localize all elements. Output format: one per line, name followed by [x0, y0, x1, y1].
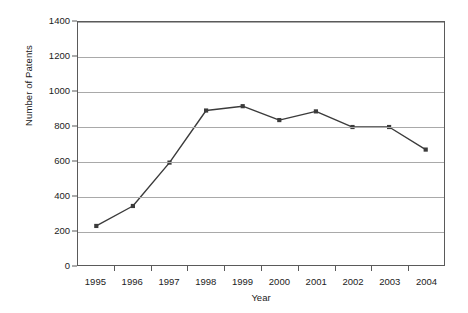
y-axis-tick-mark — [72, 91, 77, 92]
data-point-marker — [241, 104, 245, 108]
x-axis-tick-mark — [224, 266, 225, 271]
gridline — [78, 232, 444, 233]
y-axis-tick-mark — [72, 21, 77, 22]
x-axis-tick-mark — [371, 266, 372, 271]
gridline — [78, 197, 444, 198]
y-axis-tick-labels: 0200400600800100012001400 — [36, 21, 70, 266]
gridline — [78, 162, 444, 163]
y-axis-title: Number of Patents — [23, 16, 34, 156]
x-axis-tick-mark — [298, 266, 299, 271]
x-axis-title: Year — [77, 292, 445, 303]
gridline — [78, 127, 444, 128]
y-axis-tick-label: 0 — [36, 261, 70, 271]
x-axis-tick-label: 2000 — [269, 277, 290, 287]
x-axis-tick-mark — [261, 266, 262, 271]
x-axis-tick-label: 1995 — [85, 277, 106, 287]
y-axis-tick-label: 200 — [36, 226, 70, 236]
data-point-marker — [94, 224, 98, 228]
x-axis-tick-label: 1998 — [195, 277, 216, 287]
y-axis-tick-label: 1200 — [36, 51, 70, 61]
y-axis-tick-mark — [72, 231, 77, 232]
x-axis-tick-mark — [187, 266, 188, 271]
y-axis-tick-mark — [72, 56, 77, 57]
y-axis-tick-label: 400 — [36, 191, 70, 201]
patents-line-chart: Number of Patents 0200400600800100012001… — [0, 0, 468, 313]
data-point-marker — [314, 109, 318, 113]
data-point-marker — [424, 147, 428, 151]
data-line-series — [78, 22, 444, 265]
gridline — [78, 57, 444, 58]
x-axis-tick-mark — [335, 266, 336, 271]
y-axis-tick-mark — [72, 196, 77, 197]
y-axis-tick-label: 1000 — [36, 86, 70, 96]
x-axis-tick-label: 2002 — [342, 277, 363, 287]
y-axis-tick-label: 1400 — [36, 16, 70, 26]
y-axis-tick-mark — [72, 266, 77, 267]
gridline — [78, 22, 444, 23]
y-axis-tick-label: 600 — [36, 156, 70, 166]
x-axis-tick-label: 2003 — [379, 277, 400, 287]
x-axis-tick-label: 1996 — [122, 277, 143, 287]
y-axis-tick-label: 800 — [36, 121, 70, 131]
series-polyline — [96, 106, 425, 226]
x-axis-tick-label: 2004 — [416, 277, 437, 287]
x-axis-tick-label: 2001 — [306, 277, 327, 287]
data-point-marker — [277, 118, 281, 122]
series-markers — [94, 104, 428, 228]
y-axis-tick-mark — [72, 126, 77, 127]
x-axis-tick-label: 1997 — [158, 277, 179, 287]
x-axis-tick-mark — [408, 266, 409, 271]
x-axis-tick-mark — [151, 266, 152, 271]
gridline — [78, 92, 444, 93]
plot-area — [77, 21, 445, 266]
data-point-marker — [204, 108, 208, 112]
data-point-marker — [131, 204, 135, 208]
x-axis-tick-mark — [114, 266, 115, 271]
x-axis-tick-label: 1999 — [232, 277, 253, 287]
y-axis-tick-mark — [72, 161, 77, 162]
